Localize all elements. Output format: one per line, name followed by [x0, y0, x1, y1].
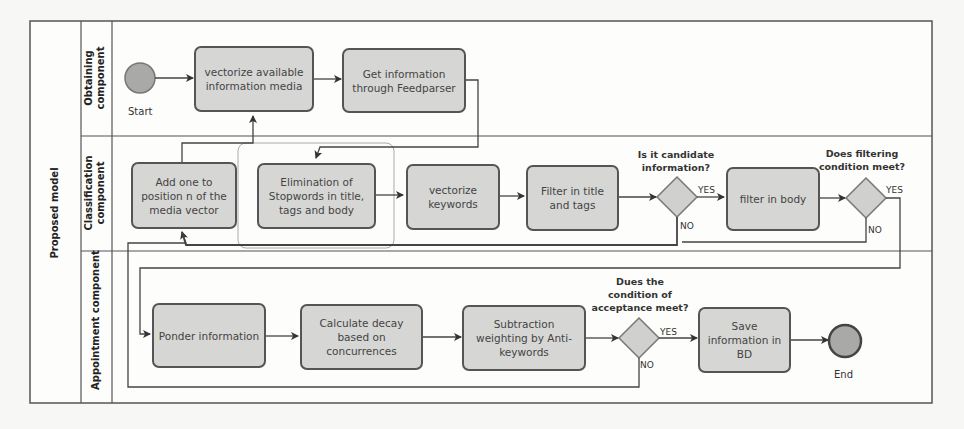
start-label: Start	[128, 105, 152, 118]
task-ponder-information: Ponder information	[152, 303, 266, 368]
task-save-information: Save information in BD	[698, 307, 791, 373]
gateway-acceptance-yes: YES	[660, 326, 677, 339]
lane-label-obtaining: Obtaining component	[83, 34, 111, 122]
gateway-candidate-yes: YES	[698, 184, 715, 197]
start-event	[125, 63, 155, 93]
pool-label: Proposed model	[49, 153, 63, 273]
gateway-acceptance-question: Dues the condition of acceptance meet?	[590, 275, 690, 314]
lane-label-classification: Classification component	[83, 145, 111, 241]
task-vectorize-keywords: vectorize keywords	[406, 164, 500, 230]
gateway-filtering-question: Does filtering condition meet?	[817, 147, 907, 173]
task-filter-body: filter in body	[726, 167, 820, 231]
lane-label-line: Appointment component	[90, 264, 102, 390]
task-add-one: Add one to position n of the media vecto…	[131, 162, 237, 229]
task-elimination-stopwords: Elimination of Stopwords in title, tags …	[257, 163, 376, 229]
task-calculate-decay: Calculate decay based on concurrences	[300, 304, 423, 370]
gateway-candidate-question: Is it candidate information?	[630, 148, 722, 174]
end-event	[829, 325, 861, 357]
lane-label-appointment: Appointment component	[90, 264, 104, 390]
task-get-information: Get information through Feedparser	[342, 48, 466, 113]
task-subtraction-weighting: Subtraction weighting by Anti-keywords	[462, 305, 586, 371]
gateway-acceptance-no: NO	[640, 359, 654, 372]
task-vectorize-media: vectorize available information media	[194, 46, 314, 112]
gateway-candidate-no: NO	[680, 220, 694, 233]
end-label: End	[834, 368, 853, 381]
gateway-filtering-no: NO	[868, 224, 882, 237]
task-filter-title-tags: Filter in title and tags	[526, 165, 619, 231]
lane-label-line: Obtaining	[83, 34, 95, 122]
lane-label-line: component	[95, 34, 107, 122]
gateway-filtering-yes: YES	[886, 184, 903, 197]
lane-label-line: Classification	[83, 145, 95, 241]
lane-label-line: component	[95, 145, 107, 241]
